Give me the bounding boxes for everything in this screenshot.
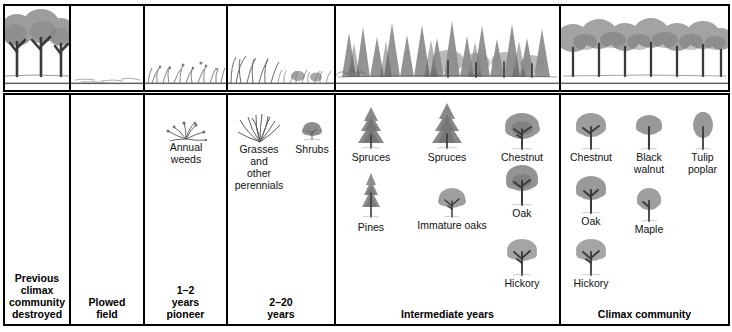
specimen-pines: Pines — [338, 171, 404, 233]
specimen-band: Previous climax community destroyed Plow… — [3, 93, 730, 326]
hickory-tree-icon — [506, 237, 538, 277]
specimen-label: Shrubs — [290, 143, 334, 155]
grass-tuft-icon — [236, 109, 284, 143]
stage-caption-pioneer: 1–2 years pioneer — [145, 284, 226, 320]
specimen-label: Spruces — [338, 151, 404, 163]
black-walnut-tree-icon — [635, 113, 663, 151]
immature-oak-icon — [436, 185, 468, 219]
specimen-immature-oaks: Immature oaks — [406, 181, 498, 231]
column-plowed-field: Plowed field — [71, 95, 143, 324]
plowed-furrows-icon — [71, 68, 143, 84]
specimen-grasses: Grasses and other perennials — [228, 107, 290, 191]
maple-tree-icon — [635, 187, 663, 223]
chestnut-tree-icon — [575, 111, 607, 151]
specimen-hickory-climax: Hickory — [561, 235, 621, 289]
spruce-tree-icon — [357, 105, 385, 151]
specimen-oak-climax: Oak — [561, 171, 621, 227]
mature-hardwood-forest-icon — [561, 8, 728, 84]
scene-climax — [561, 6, 728, 90]
scene-previous-climax — [5, 6, 69, 90]
specimen-chestnut-climax: Chestnut — [561, 109, 621, 163]
specimen-label: Chestnut — [561, 151, 621, 163]
specimen-tulip-poplar: Tulip poplar — [677, 109, 728, 175]
scene-intermediate — [336, 6, 559, 90]
specimen-label: Spruces — [408, 151, 486, 163]
weed-clump-icon — [155, 113, 217, 141]
specimen-label: Oak — [561, 215, 621, 227]
specimen-label: Black walnut — [621, 151, 677, 175]
succession-diagram: Previous climax community destroyed Plow… — [0, 0, 732, 332]
column-intermediate: Spruces Spruces — [336, 95, 559, 324]
specimen-label: Immature oaks — [406, 219, 498, 231]
landscape-band — [3, 4, 730, 92]
specimen-oak: Oak — [488, 161, 556, 219]
specimen-shrubs: Shrubs — [290, 107, 334, 155]
specimen-black-walnut: Black walnut — [621, 109, 677, 175]
specimen-hickory-intermediate: Hickory — [488, 235, 556, 289]
specimen-label: Annual weeds — [149, 141, 223, 165]
column-pioneer: Annual weeds 1–2 years pioneer — [145, 95, 226, 324]
column-climax: Chestnut Black walnut — [561, 95, 728, 324]
specimen-label: Maple — [621, 223, 677, 235]
mature-deciduous-forest-icon — [5, 6, 69, 84]
specimen-maple: Maple — [621, 183, 677, 235]
stage-caption-plowed-field: Plowed field — [71, 296, 143, 320]
tulip-poplar-tree-icon — [690, 111, 716, 151]
specimen-label: Hickory — [561, 277, 621, 289]
specimen-label: Tulip poplar — [677, 151, 728, 175]
scene-plowed-field — [71, 6, 143, 90]
stage-caption-previous-climax: Previous climax community destroyed — [5, 272, 69, 320]
column-grasses-shrubs: Grasses and other perennials — [228, 95, 334, 324]
stage-caption-grasses-shrubs: 2–20 years — [228, 296, 334, 320]
scene-grasses-shrubs — [228, 6, 334, 90]
specimen-spruces-mid: Spruces — [408, 101, 486, 163]
specimen-label: Grasses and other perennials — [228, 143, 290, 191]
specimen-label: Hickory — [488, 277, 556, 289]
shrub-icon — [299, 119, 325, 143]
conifer-forest-icon — [336, 6, 559, 85]
hickory-tree-icon — [575, 237, 607, 277]
specimen-spruces-left: Spruces — [338, 105, 404, 163]
specimen-annual-weeds: Annual weeds — [149, 111, 223, 165]
specimen-label: Oak — [488, 207, 556, 219]
specimen-label: Pines — [338, 221, 404, 233]
specimen-chestnut: Chestnut — [488, 109, 556, 163]
oak-tree-icon — [575, 173, 607, 215]
annual-weeds-field-icon — [145, 51, 226, 85]
pine-tree-icon — [359, 171, 383, 221]
oak-tree-icon — [505, 163, 539, 207]
stage-caption-climax: Climax community — [561, 308, 728, 320]
grassland-with-shrubs-icon — [228, 43, 334, 85]
scene-pioneer — [145, 6, 226, 90]
stage-caption-intermediate: Intermediate years — [336, 308, 559, 320]
column-previous-climax: Previous climax community destroyed — [5, 95, 69, 324]
spruce-tree-icon — [431, 101, 463, 151]
chestnut-tree-icon — [504, 111, 540, 151]
